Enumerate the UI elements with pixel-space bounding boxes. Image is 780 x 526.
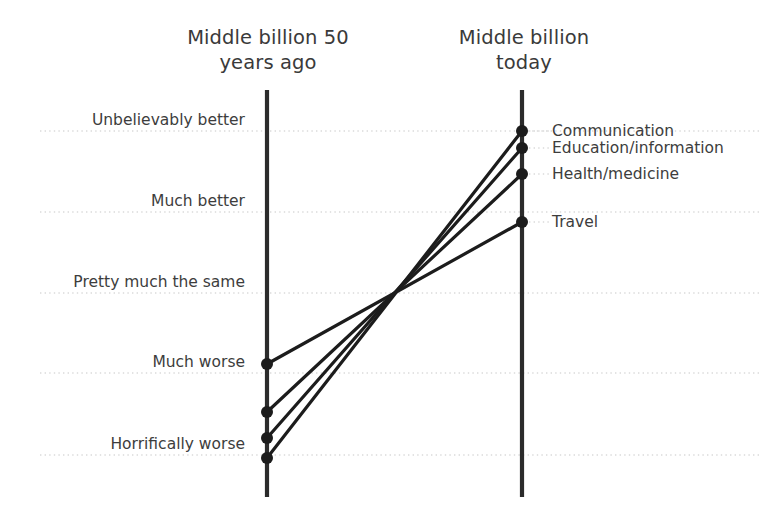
slope-chart: Middle billion 50 years ago Middle billi…: [0, 0, 780, 526]
point-start-communication: [261, 452, 273, 464]
series-lines: [267, 131, 522, 458]
series-label-communication: Communication: [552, 122, 674, 140]
point-end-education-information: [516, 142, 528, 154]
scale-label-0: Unbelievably better: [92, 111, 245, 129]
point-start-travel: [261, 358, 273, 370]
scale-label-4: Horrifically worse: [110, 435, 245, 453]
point-start-health-medicine: [261, 406, 273, 418]
series-label-travel: Travel: [552, 213, 598, 231]
scale-label-2: Pretty much the same: [73, 273, 245, 291]
scale-label-1: Much better: [151, 192, 245, 210]
series-label-health-medicine: Health/medicine: [552, 165, 679, 183]
series-line-travel: [267, 222, 522, 364]
point-start-education-information: [261, 432, 273, 444]
point-end-travel: [516, 216, 528, 228]
label-leader-lines: [529, 131, 550, 222]
point-end-communication: [516, 125, 528, 137]
point-end-health-medicine: [516, 168, 528, 180]
series-label-education-information: Education/information: [552, 139, 724, 157]
scale-label-3: Much worse: [152, 353, 245, 371]
